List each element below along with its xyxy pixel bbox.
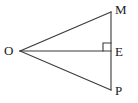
segment-OP: [20, 51, 111, 90]
right-angle-marker-icon: [103, 43, 111, 51]
vertex-label-M: M: [115, 3, 127, 16]
vertex-label-E: E: [115, 45, 123, 58]
segment-group: [20, 12, 111, 90]
vertex-label-O: O: [4, 44, 13, 57]
geometry-figure: O M E P: [0, 0, 138, 103]
vertex-label-P: P: [115, 84, 122, 97]
segment-OM: [20, 12, 111, 51]
